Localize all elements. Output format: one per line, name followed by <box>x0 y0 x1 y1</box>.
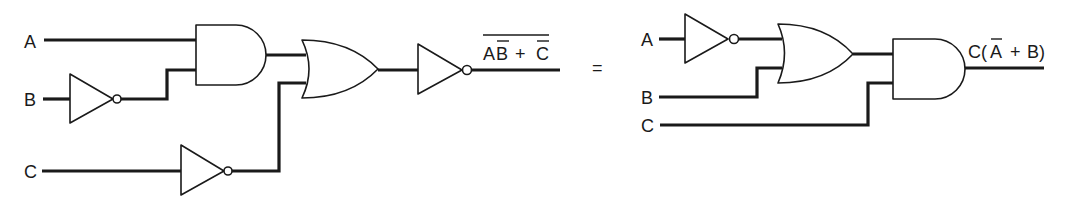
or-gate-1 <box>302 40 378 98</box>
out-label-b: B <box>496 44 508 64</box>
out-label-plus: + <box>515 44 526 64</box>
wire-notb-to-and <box>121 70 197 99</box>
input-label-a: A <box>24 32 36 52</box>
equals-sign: = <box>592 58 603 78</box>
input-label-c-right: C <box>641 116 654 136</box>
and-gate-1 <box>196 25 266 85</box>
input-label-a-right: A <box>641 30 653 50</box>
input-label-c: C <box>24 162 37 182</box>
not-gate-c <box>181 145 232 195</box>
right-output-label: C( A + B) <box>968 39 1045 62</box>
out-label-a-right: A <box>990 42 1002 62</box>
and-gate-2 <box>893 39 965 99</box>
left-output-label: A B + C <box>483 35 549 64</box>
input-label-b: B <box>24 90 36 110</box>
left-circuit: A B C A B <box>24 25 560 195</box>
input-label-b-right: B <box>641 88 653 108</box>
not-gate-b <box>70 74 121 123</box>
wire-b-to-or <box>659 68 782 97</box>
out-label-b-paren: B) <box>1027 42 1045 62</box>
or-gate-2 <box>778 24 853 83</box>
right-circuit: A B C C( A + B) <box>641 14 1045 136</box>
wire-c-to-and <box>660 83 894 125</box>
not-gate-a <box>685 14 739 63</box>
not-gate-output <box>418 44 472 94</box>
wire-notc-to-or <box>232 83 306 171</box>
out-label-a: A <box>483 44 495 64</box>
out-label-c-paren: C( <box>968 42 987 62</box>
out-label-plus-right: + <box>1010 42 1021 62</box>
logic-diagram: A B C A B <box>0 0 1076 215</box>
out-label-c: C <box>536 44 549 64</box>
